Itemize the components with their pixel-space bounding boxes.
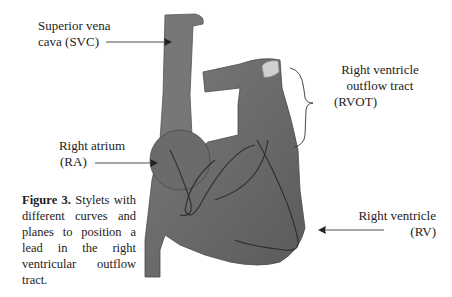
figure-caption-label: Figure 3. (22, 193, 71, 207)
right-atrium-shape (150, 130, 210, 190)
svc-vessel (160, 14, 203, 140)
label-rvot-line2: outflow tract (320, 78, 440, 94)
figure-caption: Figure 3. Stylets with different curves … (22, 192, 136, 288)
label-svc-line1: Superior vena (38, 18, 111, 34)
label-svc-line2: cava (SVC) (38, 34, 111, 50)
label-rv: Right ventricle (RV) (340, 208, 436, 240)
label-ra-line1: Right atrium (52, 138, 132, 154)
label-rvot-line1: Right ventricle (320, 62, 440, 78)
arrowhead-rv (318, 226, 326, 234)
label-rvot-line3: (RVOT) (320, 94, 440, 110)
label-rv-line2: (RV) (340, 224, 436, 240)
figure-caption-text: Stylets with different curves and planes… (22, 193, 136, 287)
label-ra-line2: (RA) (52, 154, 132, 170)
label-rvot: Right ventricle outflow tract (RVOT) (320, 62, 440, 110)
label-svc: Superior vena cava (SVC) (38, 18, 111, 50)
label-ra: Right atrium (RA) (52, 138, 132, 170)
label-rv-line1: Right ventricle (340, 208, 436, 224)
